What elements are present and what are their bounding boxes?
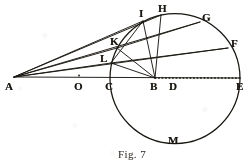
chord-L-F: [111, 48, 228, 63]
figure-7-geometric-diagram: AOCBDEFGHIKLM Fig. 7: [0, 0, 250, 161]
point-label-m: M: [168, 135, 178, 146]
axis-A-to-B: [14, 77, 240, 78]
chord-B-H: [155, 15, 161, 78]
point-label-a: A: [5, 81, 13, 92]
geometry-canvas: [0, 0, 250, 161]
point-label-b: B: [150, 81, 157, 92]
main-circle: [110, 14, 240, 144]
point-label-l: L: [100, 53, 107, 64]
chord-B-L: [111, 63, 155, 78]
lines-layer: [14, 15, 240, 78]
point-label-o: O: [74, 81, 83, 92]
point-label-c: C: [105, 81, 113, 92]
figure-caption: Fig. 7: [118, 148, 146, 160]
centre-mark-O: [78, 75, 80, 77]
point-label-f: F: [231, 38, 238, 49]
point-label-h: H: [158, 3, 167, 14]
point-label-i: I: [139, 8, 143, 19]
point-label-k: K: [110, 36, 119, 47]
point-marks-layer: [78, 75, 80, 77]
circle-outline: [110, 14, 240, 144]
point-label-d: D: [169, 81, 177, 92]
point-label-e: E: [236, 81, 243, 92]
ray-A-L: [14, 63, 111, 77]
point-label-g: G: [202, 12, 211, 23]
